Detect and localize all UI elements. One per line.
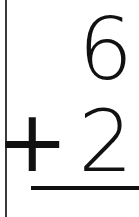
sum-rule [31,186,139,190]
plus-operator-icon: + [0,98,68,184]
arithmetic-flashcard: 6 + 2 [0,0,139,217]
first-operand-digit: 6 [78,0,133,99]
addition-problem: 6 + 2 [10,0,139,217]
first-operand-row: 6 [78,6,133,92]
operator-and-second-operand-row: + 2 [10,98,133,184]
answer-space[interactable] [31,192,139,217]
second-operand-digit: 2 [78,98,133,184]
